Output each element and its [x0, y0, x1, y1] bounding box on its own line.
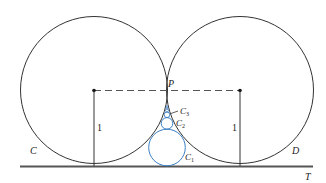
label-c3: C3 — [180, 106, 189, 117]
label-radius-left: 1 — [97, 122, 102, 133]
label-c2: C2 — [176, 118, 185, 129]
circle-c3 — [164, 112, 170, 118]
label-radius-right: 1 — [232, 122, 237, 133]
circles-diagram: P C D T 1 1 C1 C2 C3 — [0, 0, 326, 183]
diagram-canvas: P C D T 1 1 C1 C2 C3 — [0, 0, 326, 183]
circle-c6 — [166, 106, 167, 107]
label-t: T — [305, 171, 312, 182]
c3-pointer — [171, 111, 178, 114]
circle-c4 — [166, 109, 169, 112]
label-d: D — [291, 145, 300, 156]
label-c: C — [30, 145, 37, 156]
circle-c1 — [149, 129, 186, 166]
circle-c2 — [161, 118, 173, 130]
label-p: P — [167, 78, 174, 89]
label-c1: C1 — [185, 152, 194, 163]
